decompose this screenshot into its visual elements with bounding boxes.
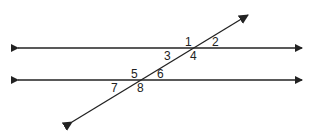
angle-label-5: 5 [131,67,138,81]
angle-label-8: 8 [137,81,144,95]
angle-label-1: 1 [185,35,192,49]
angle-label-3: 3 [164,49,171,63]
angle-label-7: 7 [111,81,118,95]
parallel-lines-transversal-diagram: 1 2 3 4 5 6 7 8 [0,0,320,137]
angle-label-2: 2 [212,35,219,49]
angle-label-4: 4 [190,49,197,63]
angle-label-6: 6 [157,67,164,81]
